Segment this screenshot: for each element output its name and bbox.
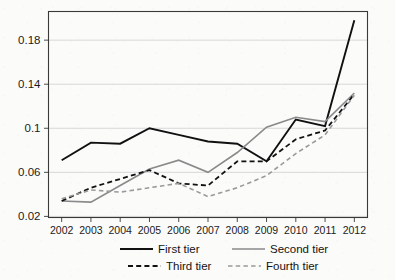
y-axis-tick-label: 0.1: [25, 122, 41, 134]
legend-label-fourth-tier: Fourth tier: [266, 260, 319, 272]
series-line-second-tier: [62, 93, 355, 202]
line-chart: 0.020.060.10.140.18 20022003200420052006…: [0, 0, 395, 280]
x-axis-ticks: [62, 218, 355, 223]
x-axis-tick-label: 2002: [50, 224, 74, 236]
y-axis-tick-label: 0.18: [18, 34, 40, 46]
y-axis-ticks: [44, 40, 49, 216]
grid-lines: [49, 40, 368, 216]
chart-canvas: 0.020.060.10.140.18 20022003200420052006…: [0, 0, 395, 280]
series-lines: [62, 20, 355, 202]
legend-label-third-tier: Third tier: [166, 260, 212, 272]
x-axis-tick-label: 2007: [196, 224, 220, 236]
x-axis-tick-label: 2010: [284, 224, 308, 236]
x-axis-tick-label: 2008: [226, 224, 250, 236]
x-axis-tick-label: 2004: [109, 224, 133, 236]
x-axis-tick-label: 2011: [314, 224, 337, 236]
x-axis-tick-label: 2009: [255, 224, 279, 236]
y-axis-tick-label: 0.02: [18, 210, 40, 222]
x-axis-tick-label: 2006: [167, 224, 191, 236]
series-line-fourth-tier: [62, 95, 355, 199]
x-axis-labels: 2002200320042005200620072008200920102011…: [50, 224, 366, 236]
y-axis-tick-label: 0.06: [18, 166, 40, 178]
y-axis-tick-label: 0.14: [18, 78, 41, 90]
x-axis-tick-label: 2012: [343, 224, 367, 236]
legend-label-first-tier: First tier: [158, 243, 200, 255]
y-axis-labels: 0.020.060.10.140.18: [18, 34, 41, 222]
series-line-third-tier: [62, 94, 355, 201]
series-line-first-tier: [62, 20, 355, 161]
chart-legend: First tierSecond tierThird tierFourth ti…: [120, 243, 328, 272]
x-axis-tick-label: 2003: [79, 224, 103, 236]
legend-label-second-tier: Second tier: [270, 243, 328, 255]
x-axis-tick-label: 2005: [138, 224, 162, 236]
